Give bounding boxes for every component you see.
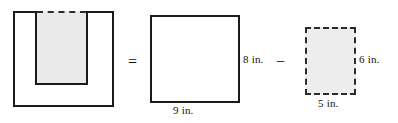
composite-notch-right-edge	[86, 11, 88, 85]
composite-notch-dashed-top-edge	[37, 11, 86, 13]
composite-notch-left-edge	[35, 11, 37, 85]
area-decomposition-figure: = 9 in. 8 in. − 5 in. 6 in.	[0, 0, 398, 123]
removed-rectangle-height-label: 6 in.	[359, 53, 380, 65]
whole-square-height-label: 8 in.	[243, 53, 264, 65]
removed-rectangle	[305, 27, 356, 95]
equals-sign: =	[128, 54, 137, 70]
composite-shape-group	[13, 11, 114, 107]
composite-notch-fill	[35, 11, 88, 85]
whole-square	[150, 15, 240, 103]
minus-sign: −	[276, 54, 285, 70]
removed-rectangle-width-label: 5 in.	[318, 97, 339, 109]
whole-square-width-label: 9 in.	[173, 104, 194, 116]
composite-notch-bottom-edge	[35, 83, 88, 85]
